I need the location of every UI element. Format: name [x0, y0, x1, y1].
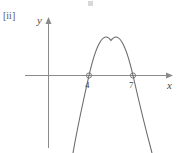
y-axis-arrowhead: [46, 17, 52, 24]
y-axis-label: y: [36, 14, 42, 26]
figure-container: [ii] x y 4 7: [0, 0, 178, 153]
root-label-left: 4: [85, 80, 90, 90]
root-label-right: 7: [129, 80, 134, 90]
x-axis-arrowhead: [166, 73, 173, 79]
x-axis-label: x: [166, 79, 172, 91]
parabola-curve: [73, 37, 152, 153]
graph-svg: x y 4 7: [0, 0, 178, 153]
